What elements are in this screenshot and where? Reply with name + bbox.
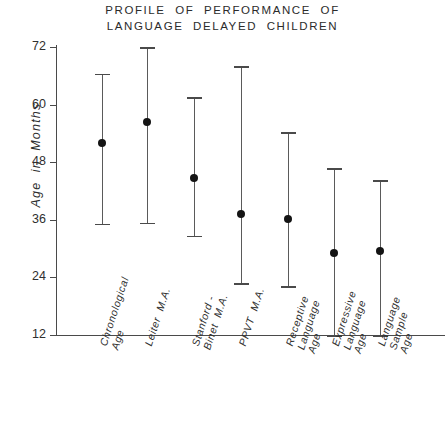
data-point-marker (143, 118, 151, 126)
error-bar-whisker-line (147, 47, 148, 223)
y-tick-label: 12 (6, 327, 46, 341)
error-bar-cap-upper (234, 66, 249, 68)
error-bar-whisker-line (288, 132, 289, 286)
error-bar-cap-upper (187, 97, 202, 99)
data-point-marker (284, 215, 292, 223)
error-bar-cap-upper (327, 168, 342, 170)
y-tick-label: 60 (6, 97, 46, 111)
y-tick-label: 36 (6, 212, 46, 226)
y-tick-mark (50, 105, 57, 106)
y-tick-label: 72 (6, 39, 46, 53)
y-tick-mark (50, 47, 57, 48)
error-bar-cap-upper (95, 74, 110, 76)
data-point-marker (98, 139, 106, 147)
error-bar-cap-upper (140, 47, 155, 49)
data-point-marker (237, 210, 245, 218)
error-bar-cap-upper (281, 132, 296, 134)
error-bar-cap-lower (95, 224, 110, 226)
chart-title: PROFILE OF PERFORMANCE OF LANGUAGE DELAY… (0, 2, 445, 34)
y-tick-label: 48 (6, 154, 46, 168)
error-bar-cap-lower (281, 286, 296, 288)
data-point-marker (190, 174, 198, 182)
chart-page: PROFILE OF PERFORMANCE OF LANGUAGE DELAY… (0, 0, 445, 445)
error-bar-cap-lower (234, 283, 249, 285)
error-bar-whisker-line (102, 74, 103, 224)
y-tick-label: 24 (6, 269, 46, 283)
chart-title-line-1: PROFILE OF PERFORMANCE OF (0, 2, 445, 18)
error-bar-whisker-line (194, 97, 195, 235)
y-tick-mark (50, 220, 57, 221)
y-tick-mark (50, 335, 57, 336)
y-tick-mark (50, 162, 57, 163)
error-bar-cap-upper (373, 180, 388, 182)
y-tick-mark (50, 277, 57, 278)
chart-title-line-2: LANGUAGE DELAYED CHILDREN (0, 18, 445, 34)
error-bar-cap-lower (140, 223, 155, 225)
